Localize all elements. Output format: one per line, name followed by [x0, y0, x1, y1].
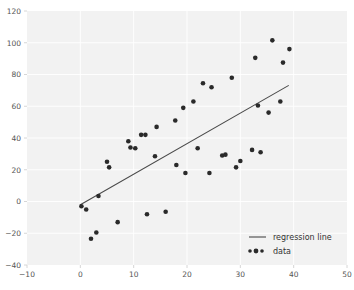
- data-point: [191, 99, 196, 104]
- data-point: [258, 150, 263, 155]
- data-point: [145, 212, 150, 217]
- data-point: [173, 118, 178, 123]
- data-point: [256, 103, 261, 108]
- y-tick-label: −20: [5, 229, 21, 238]
- y-tick-label: 120: [7, 7, 22, 16]
- data-point: [207, 171, 212, 176]
- x-tick-label: 40: [289, 270, 299, 279]
- y-tick-label: 100: [7, 39, 22, 48]
- y-tick-label: 60: [11, 102, 21, 111]
- data-point: [89, 237, 94, 242]
- data-point: [201, 81, 206, 86]
- data-point: [287, 47, 292, 52]
- data-point: [209, 85, 214, 90]
- y-tick-label: 40: [11, 134, 21, 143]
- data-point: [94, 230, 99, 235]
- data-point: [143, 133, 148, 138]
- data-point: [128, 145, 133, 150]
- legend-label: regression line: [273, 233, 332, 242]
- data-point: [234, 165, 239, 170]
- data-point: [223, 152, 228, 157]
- data-point: [266, 110, 271, 115]
- data-point: [270, 38, 275, 43]
- data-point: [230, 75, 235, 80]
- data-point: [107, 165, 112, 170]
- data-point: [115, 220, 120, 225]
- y-tick-label: −40: [5, 261, 21, 270]
- data-point: [163, 210, 168, 215]
- y-tick-label: 80: [11, 70, 21, 79]
- y-tick-label: 20: [11, 166, 21, 175]
- y-tick-label: 0: [16, 197, 21, 206]
- x-tick-label: 10: [129, 270, 139, 279]
- data-point: [105, 160, 110, 165]
- x-tick-label: 0: [78, 270, 83, 279]
- data-point: [183, 171, 188, 176]
- data-point: [139, 133, 144, 138]
- data-point: [96, 194, 101, 199]
- data-point: [154, 125, 159, 130]
- data-point: [250, 148, 255, 153]
- legend-label: data: [273, 247, 291, 256]
- data-point: [281, 60, 286, 65]
- data-point: [133, 146, 138, 151]
- data-point: [278, 99, 283, 104]
- data-point: [84, 207, 89, 212]
- data-point: [79, 204, 84, 209]
- data-point: [174, 163, 179, 168]
- data-point: [195, 146, 200, 151]
- data-point: [238, 159, 243, 164]
- data-point: [126, 139, 131, 144]
- data-point: [153, 154, 158, 159]
- x-tick-label: 20: [182, 270, 192, 279]
- x-tick-label: 50: [342, 270, 352, 279]
- x-tick-label: 30: [236, 270, 246, 279]
- data-point: [253, 56, 258, 61]
- data-point: [181, 106, 186, 111]
- scatter-plot: −1001020304050 −40−20020406080100120 reg…: [0, 0, 354, 290]
- x-tick-label: −10: [19, 270, 35, 279]
- figure-container: −1001020304050 −40−20020406080100120 reg…: [0, 0, 354, 290]
